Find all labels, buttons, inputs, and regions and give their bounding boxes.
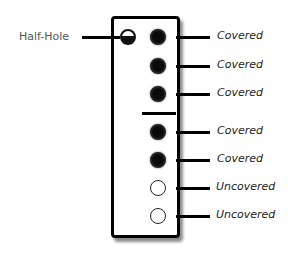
hole-1-covered-icon [150, 29, 166, 45]
hole-3-label: Covered [217, 87, 263, 99]
hole-1-connector [176, 36, 210, 39]
hole-7-label: Uncovered [216, 209, 275, 221]
hole-5-connector [176, 159, 210, 162]
hole-5-label: Covered [217, 153, 263, 165]
hole-6-label: Uncovered [216, 181, 275, 193]
hole-4-covered-icon [150, 124, 166, 140]
hole-7-uncovered-icon [150, 208, 166, 224]
half-hole-connector [82, 36, 120, 39]
hole-2-connector [176, 65, 210, 68]
hole-1-label: Covered [217, 30, 263, 42]
hole-5-covered-icon [150, 152, 166, 168]
divider-line [142, 112, 176, 115]
hole-7-connector [176, 215, 210, 218]
hole-6-connector [176, 187, 210, 190]
hole-6-uncovered-icon [150, 180, 166, 196]
hole-4-label: Covered [217, 125, 263, 137]
hole-3-covered-icon [150, 86, 166, 102]
hole-2-covered-icon [150, 58, 166, 74]
half-hole-label: Half-Hole [19, 31, 69, 43]
hole-2-label: Covered [217, 59, 263, 71]
instrument-body [111, 16, 180, 238]
hole-4-connector [176, 131, 210, 134]
half-hole-icon [120, 29, 136, 45]
hole-3-connector [176, 93, 210, 96]
